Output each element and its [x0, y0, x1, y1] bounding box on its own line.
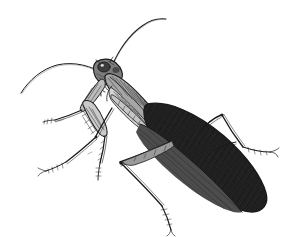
praying-mantis-illustration	[0, 0, 293, 237]
illustration-canvas: Praying mantis mantid insect lateral vie…	[0, 0, 293, 237]
